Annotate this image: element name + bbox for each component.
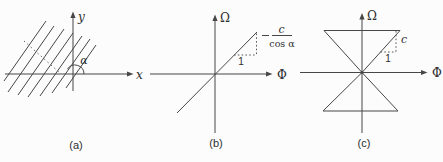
figure-c-caption: (c)	[358, 137, 371, 149]
bowtie-lower-triangle	[323, 73, 398, 112]
omega-axis-arrow-icon	[359, 13, 364, 20]
phi-axis-arrow-icon	[266, 71, 273, 76]
x-axis-label: x	[136, 68, 143, 82]
normal-direction-dashed-line	[24, 41, 60, 73]
slope-fraction-numerator: c	[278, 23, 284, 36]
y-axis-label: y	[77, 10, 85, 24]
slope-fraction-denominator: cos α	[269, 38, 295, 49]
hatch-line	[8, 26, 54, 92]
phi-axis-label: Φ	[277, 68, 287, 82]
y-axis-arrow-icon	[70, 12, 75, 19]
omega-axis-label: Ω	[367, 9, 377, 23]
omega-axis-arrow-icon	[212, 15, 217, 22]
lower-right-diagonal	[362, 73, 398, 112]
hatch-line	[40, 36, 82, 96]
figure-a-caption: (a)	[69, 139, 82, 151]
phi-axis-arrow-icon	[421, 70, 428, 75]
omega-axis-label: Ω	[220, 11, 230, 25]
angle-label: α	[80, 54, 88, 67]
phi-axis-label: Φ	[432, 66, 442, 80]
dispersion-line	[177, 32, 257, 113]
figure-a: x y α (a)	[4, 10, 143, 151]
hatch-line	[4, 21, 46, 81]
origin-dot	[361, 71, 364, 74]
diagram-canvas: x y α (a) c cos α 1 Φ Ω (b)	[0, 0, 443, 162]
x-axis-arrow-icon	[127, 71, 134, 76]
lower-left-diagonal	[323, 73, 362, 112]
figure-b: c cos α 1 Φ Ω (b)	[150, 11, 295, 150]
upper-left-diagonal	[324, 31, 362, 73]
slope-run-label: 1	[385, 53, 391, 64]
figure-c: 1 c Φ Ω (c)	[300, 9, 442, 149]
slope-rise-label: c	[401, 33, 407, 46]
figure-b-caption: (b)	[209, 137, 222, 149]
slope-run-label: 1	[238, 56, 244, 67]
diagram-page: x y α (a) c cos α 1 Φ Ω (b)	[0, 0, 443, 162]
